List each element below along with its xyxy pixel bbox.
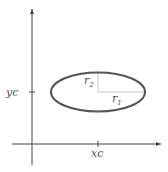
xc-label: xc — [91, 147, 103, 160]
yc-label: yc — [5, 86, 18, 99]
r1-label: r1 — [112, 92, 122, 107]
ellipse-diagram: yc xc r2 r1 — [0, 0, 168, 172]
r2-label: r2 — [84, 74, 94, 89]
